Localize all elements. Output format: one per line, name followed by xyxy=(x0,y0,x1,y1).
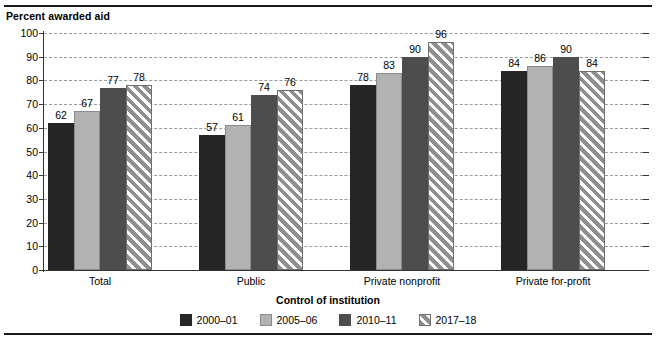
chart-legend: 2000–012005–062010–112017–18 xyxy=(0,314,656,326)
x-axis-category-label: Private for-profit xyxy=(478,275,628,287)
bar-value-label: 90 xyxy=(547,43,585,55)
legend-label: 2005–06 xyxy=(277,314,318,326)
y-axis-tick-right xyxy=(643,104,649,105)
y-axis-tick xyxy=(39,57,44,58)
y-axis-tick-label: 80 xyxy=(2,74,38,86)
bar xyxy=(100,88,126,270)
x-axis-category-label: Public xyxy=(176,275,326,287)
bar-value-label: 84 xyxy=(573,57,611,69)
y-axis-tick-right xyxy=(643,80,649,81)
y-axis-tick-right xyxy=(643,175,649,176)
legend-item: 2017–18 xyxy=(419,314,477,326)
bar xyxy=(501,71,527,270)
y-axis-tick-label: 100 xyxy=(2,27,38,39)
bar-value-label: 78 xyxy=(120,71,158,83)
y-axis-tick-right xyxy=(643,199,649,200)
bar xyxy=(251,95,277,270)
x-axis-category-label: Total xyxy=(25,275,175,287)
y-axis-tick xyxy=(39,104,44,105)
bar xyxy=(553,57,579,270)
plot-area: 62677778576174767883909684869084 xyxy=(44,33,648,270)
y-axis-tick xyxy=(39,152,44,153)
bar xyxy=(199,135,225,270)
y-axis-title: Percent awarded aid xyxy=(6,10,110,22)
legend-swatch-icon xyxy=(260,314,272,326)
bar xyxy=(277,90,303,270)
legend-label: 2017–18 xyxy=(436,314,477,326)
y-axis-tick-right xyxy=(643,152,649,153)
y-axis-tick xyxy=(39,246,44,247)
y-axis-tick-right xyxy=(643,33,649,34)
legend-item: 2000–01 xyxy=(180,314,238,326)
bar xyxy=(126,85,152,270)
bar-value-label: 96 xyxy=(422,28,460,40)
legend-label: 2010–11 xyxy=(356,314,396,326)
y-axis-tick-label: 50 xyxy=(2,146,38,158)
bar xyxy=(402,57,428,270)
bottom-divider-rule xyxy=(4,333,652,335)
y-axis-tick-label: 20 xyxy=(2,217,38,229)
y-axis-tick xyxy=(39,80,44,81)
y-axis-tick xyxy=(39,223,44,224)
y-axis-tick xyxy=(39,270,44,271)
y-axis-tick-label: 60 xyxy=(2,122,38,134)
legend-item: 2005–06 xyxy=(260,314,318,326)
y-axis-tick-right xyxy=(643,246,649,247)
y-axis-tick-right xyxy=(643,270,649,271)
bar xyxy=(527,66,553,270)
bar-value-label: 76 xyxy=(271,76,309,88)
bar xyxy=(376,73,402,270)
y-axis-tick-label: 10 xyxy=(2,240,38,252)
y-axis-tick-right xyxy=(643,128,649,129)
y-axis-tick-label: 90 xyxy=(2,51,38,63)
y-axis-tick-label: 30 xyxy=(2,193,38,205)
bar xyxy=(579,71,605,270)
legend-swatch-icon xyxy=(180,314,192,326)
bar xyxy=(350,85,376,270)
y-axis-tick-right xyxy=(643,57,649,58)
y-axis-tick xyxy=(39,33,44,34)
legend-swatch-icon xyxy=(419,314,431,326)
x-axis-line xyxy=(43,270,649,271)
y-axis-tick-label: 70 xyxy=(2,98,38,110)
x-axis-title: Control of institution xyxy=(0,294,656,306)
y-axis-tick-label: 40 xyxy=(2,169,38,181)
bar xyxy=(48,123,74,270)
bar xyxy=(74,111,100,270)
y-axis-tick-right xyxy=(643,223,649,224)
legend-swatch-icon xyxy=(339,314,351,326)
bar xyxy=(428,42,454,270)
y-axis-tick xyxy=(39,175,44,176)
y-axis-tick-labels: 0102030405060708090100 xyxy=(0,33,38,270)
legend-item: 2010–11 xyxy=(339,314,396,326)
gridline xyxy=(44,33,648,34)
y-axis-tick xyxy=(39,199,44,200)
x-axis-category-label: Private nonprofit xyxy=(327,275,477,287)
top-divider-rule xyxy=(4,5,652,7)
bar xyxy=(225,125,251,270)
y-axis-tick xyxy=(39,128,44,129)
chart-figure: Percent awarded aid 01020304050607080901… xyxy=(0,0,656,341)
legend-label: 2000–01 xyxy=(197,314,238,326)
